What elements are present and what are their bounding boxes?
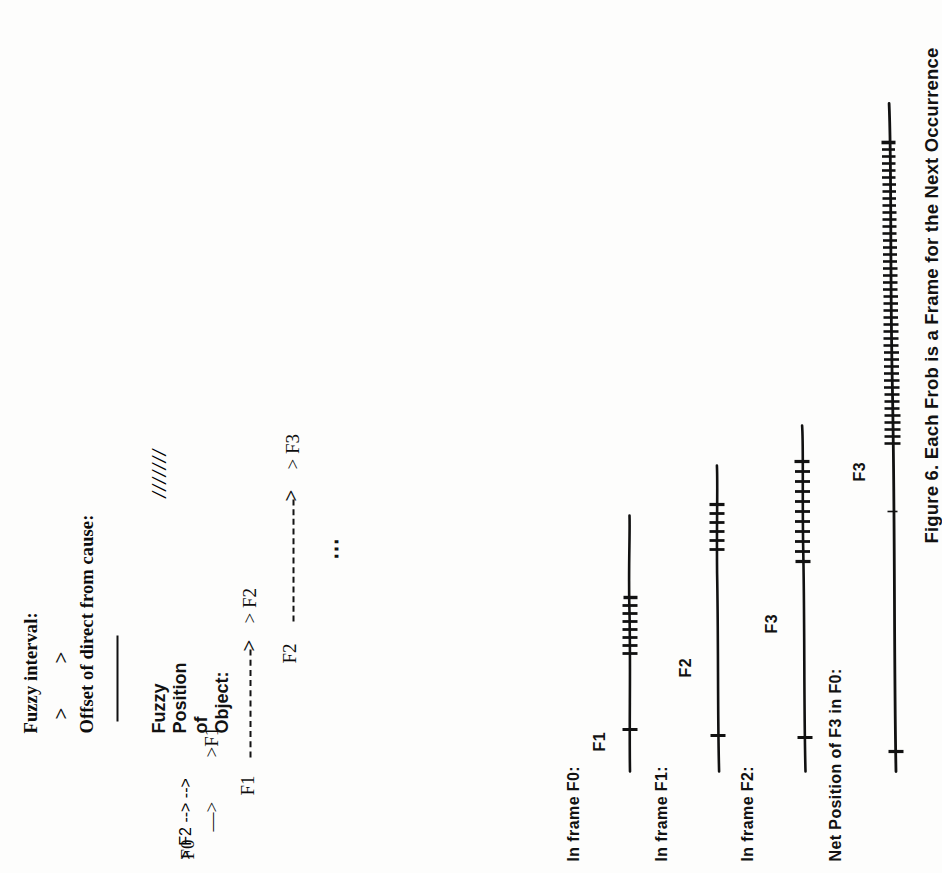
chain-node-f1: F1 <box>236 775 258 795</box>
legend-offset-symbol <box>116 635 118 721</box>
chain-arrowhead-f1: > <box>238 639 259 651</box>
timeline-object-label-f1: F1 <box>590 732 608 751</box>
timeline-frame-label-f1: In frame F1: <box>652 766 670 862</box>
legend-offset-label: Offset of direct from cause: <box>76 514 97 733</box>
timeline-in-frame-f0: In frame F0: F1 <box>560 0 640 873</box>
timeline-axis-f2 <box>792 423 814 773</box>
figure-caption: Figure 6. Each Frob is a Frame for the N… <box>920 47 942 543</box>
timeline-net-position: Net Position of F3 in F0: F3 <box>822 0 902 873</box>
chain-node-f0: F0 <box>176 839 198 859</box>
timeline-axis-net <box>880 101 904 773</box>
timeline-frame-label-f2: In frame F2: <box>738 766 756 862</box>
chain-node-f1-target: >F1 <box>200 726 222 757</box>
chain-ellipsis: ⋯ <box>322 533 348 559</box>
legend-fuzzy-interval-symbol-left: > <box>50 707 71 719</box>
frame-chain-diagram: F0 —> >F1 > F2 --> F1 > > F2 --> F2 > ⋯ … <box>176 379 366 859</box>
timeline-object-label-f2: F2 <box>676 658 694 677</box>
chain-dashed-arrow-f2 <box>292 499 294 621</box>
legend-fuzzy-interval-label: Fuzzy interval: <box>20 612 41 733</box>
chain-node-f2-target: > F2 <box>238 587 260 623</box>
timeline-frame-label-f0: In frame F0: <box>564 766 582 862</box>
legend-fuzzy-interval-symbol-right: > <box>50 651 71 663</box>
timeline-in-frame-f2: In frame F2: F3 <box>734 0 814 873</box>
legend-fuzzy-position-symbol: /////// <box>147 448 170 497</box>
timeline-object-label-net-f3: F3 <box>850 462 868 481</box>
timeline-in-frame-f1: In frame F1: F2 <box>648 0 728 873</box>
chain-arrowhead-f2: > <box>280 489 301 501</box>
timeline-object-label-f3: F3 <box>762 614 780 633</box>
chain-node-f2: F2 <box>278 643 300 663</box>
chain-dashed-arrow-f1 <box>249 649 251 757</box>
chain-arrow-f0: —> <box>200 801 222 831</box>
timeline-axis-f1 <box>706 463 728 773</box>
timeline-frame-label-net: Net Position of F3 in F0: <box>826 668 844 861</box>
timeline-axis-f0 <box>618 513 640 773</box>
chain-node-f3-target: > F3 <box>281 433 303 469</box>
